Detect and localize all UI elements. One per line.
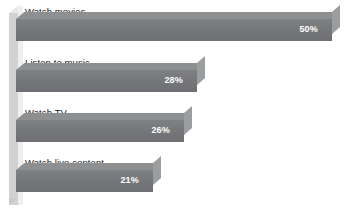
bar-top-face: [16, 12, 340, 19]
bar-watch-live-content: 21%: [16, 170, 153, 192]
bar-top-face: [16, 163, 161, 170]
bar-top-face: [16, 113, 192, 120]
bar-listen-to-music: 28%: [16, 70, 197, 92]
bar-value-label: 50%: [299, 24, 318, 34]
bar-value-label: 26%: [151, 125, 170, 135]
bar-front-face: [16, 19, 332, 41]
bar-side-face: [153, 156, 161, 185]
bar-value-label: 28%: [164, 75, 183, 85]
bar-value-label: 21%: [120, 175, 139, 185]
bar-top-face: [16, 63, 205, 70]
bar-side-face: [184, 106, 192, 135]
bar-chart: Watch movies 50% Listen to music 28% Wat…: [0, 0, 349, 220]
bar-side-face: [197, 56, 205, 85]
axis-wall-top-face: [9, 6, 18, 13]
axis-wall-bottom-face: [9, 198, 18, 205]
bar-watch-tv: 26%: [16, 120, 184, 142]
bar-watch-movies: 50%: [16, 19, 332, 41]
bar-side-face: [332, 5, 340, 34]
